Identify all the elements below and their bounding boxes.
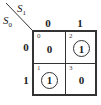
row-label-1: 1 [21, 75, 31, 86]
column-variable: S1 [17, 3, 26, 17]
cell-index: 3 [69, 65, 73, 72]
kmap-cell-2: 2 1 [66, 32, 97, 63]
kmap-cell-0: 0 0 [34, 32, 65, 63]
kmap-cell-1: 1 1 [34, 64, 65, 94]
row-variable: S0 [3, 15, 12, 29]
kmap-grid: 0 0 2 1 1 1 3 0 [32, 30, 97, 96]
column-label-1: 1 [75, 18, 85, 29]
cell-value: 1 [66, 43, 97, 54]
cell-index: 2 [69, 33, 73, 40]
cell-value: 0 [34, 43, 65, 54]
cell-value: 1 [34, 75, 65, 86]
kmap-cell-3: 3 0 [66, 64, 97, 94]
column-label-0: 0 [43, 18, 53, 29]
cell-index: 1 [37, 65, 41, 72]
cell-value: 0 [66, 75, 97, 86]
row-label-0: 0 [21, 42, 31, 53]
cell-index: 0 [37, 33, 41, 40]
